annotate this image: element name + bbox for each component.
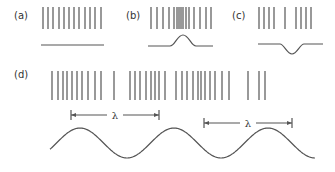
- panel-c: (c): [232, 7, 323, 54]
- panel-a-label: (a): [14, 10, 28, 21]
- wavelength-marker: λ: [204, 118, 292, 129]
- density-wave-diagram: (a) (b) (c) (d) λλ: [0, 0, 335, 172]
- panel-a: (a): [14, 7, 104, 45]
- panel-c-dip-profile: [258, 44, 323, 54]
- panel-d-lines: [52, 71, 265, 100]
- panel-c-label: (c): [232, 10, 245, 21]
- panel-a-lines: [43, 7, 101, 29]
- sine-wave: [50, 128, 315, 158]
- lambda-label: λ: [245, 118, 252, 129]
- panel-b-lines: [151, 7, 211, 29]
- panel-d: (d) λλ: [14, 69, 315, 158]
- panel-d-label: (d): [14, 69, 28, 80]
- lambda-label: λ: [112, 110, 119, 121]
- panel-b-bump-profile: [148, 35, 213, 46]
- panel-b: (b): [126, 7, 213, 46]
- wavelength-marker: λ: [71, 110, 159, 121]
- panel-c-lines: [259, 7, 311, 29]
- panel-b-label: (b): [126, 10, 140, 21]
- wavelength-markers: λλ: [71, 110, 292, 129]
